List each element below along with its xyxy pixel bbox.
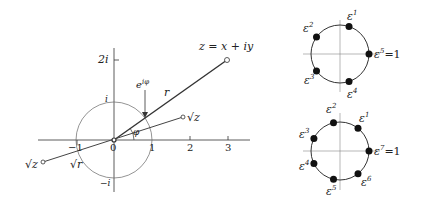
eps-4-top: ε4 [347, 88, 357, 100]
eps-6-bottom: ε6 [361, 176, 371, 188]
tick-3: 3 [225, 143, 231, 153]
eps-7-bottom: ε7=1 [374, 145, 401, 157]
tick-0: 0 [110, 143, 116, 153]
tick-neg-1: −1 [68, 143, 83, 153]
sqrt-z-point [181, 115, 185, 119]
roots-of-unity-5 [303, 20, 380, 92]
sqrt-z-label: √z [187, 112, 200, 123]
sqrt-r-label: √r [70, 159, 82, 170]
tick-1: 1 [149, 143, 155, 153]
neg-sqrt-z-label: √z [25, 159, 38, 170]
neg-i-label: −i [100, 179, 110, 188]
r-label: r [164, 87, 169, 98]
z-point [225, 58, 230, 63]
diagram-canvas [0, 0, 422, 209]
phi-label: φ [133, 128, 139, 137]
eps-1-bottom: ε1 [359, 112, 369, 124]
eps-4-bottom: ε4 [299, 160, 309, 172]
tick-2: 2 [187, 143, 193, 153]
eps-3-bottom: ε3 [299, 128, 309, 140]
eps-1-top: ε1 [347, 10, 357, 22]
neg-sqrt-z-point [41, 160, 45, 164]
eps-3-top: ε3 [304, 74, 314, 86]
eps-2-top: ε2 [303, 22, 313, 34]
eps-5-bottom: ε5 [326, 185, 336, 197]
i-label: i [105, 95, 108, 104]
z-label: z = x + iy [199, 41, 253, 52]
eps-2-bottom: ε2 [326, 103, 336, 115]
two-i-label: 2i [98, 54, 109, 65]
eps-5-top: ε5=1 [374, 48, 401, 60]
exp-label: eiφ [136, 79, 149, 90]
z-ray [114, 60, 227, 140]
